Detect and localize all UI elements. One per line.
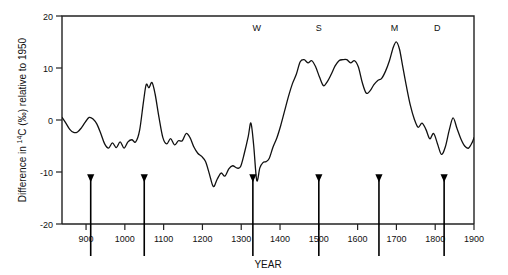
y-axis-title-rest: C (‰) relative to 1950 [17,37,28,135]
wolf-minimum-label: W [252,23,261,33]
y-tick-label: -10 [40,168,53,178]
x-axis-title: YEAR [254,259,281,270]
x-tick-label: 1200 [192,234,212,244]
x-tick-label: 1900 [464,234,484,244]
x-tick-label: 1300 [231,234,251,244]
y-tick-label: 0 [48,116,53,126]
x-tick-label: 1100 [154,234,173,244]
x-tick-label: 1600 [348,234,368,244]
y-tick-label: 10 [43,64,53,74]
x-tick-label: 1000 [115,234,135,244]
chart-canvas: 9001000110012001300140015001600170018001… [0,0,508,275]
y-axis-title-superscript: 14 [16,136,23,144]
y-axis-title-text: Difference in 14C (‰) relative to 1950 [16,37,28,202]
sporer-minimum-label: S [316,23,322,33]
x-tick-label: 1700 [386,234,406,244]
y-tick-label: 20 [43,12,53,22]
y-axis-title-prefix: Difference in [17,143,28,202]
x-tick-label: 1400 [270,234,290,244]
x-tick-label: 1800 [425,234,445,244]
y-tick-label: -20 [40,220,53,230]
radiocarbon-chart-figure: 9001000110012001300140015001600170018001… [0,0,508,275]
maunder-minimum-label: M [391,23,399,33]
dalton-minimum-label: D [434,23,441,33]
y-axis-title: Difference in 14C (‰) relative to 1950 [16,37,28,202]
